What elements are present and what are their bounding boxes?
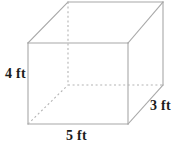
edge-top-right-diagonal — [128, 2, 163, 43]
edge-top-left-diagonal — [28, 2, 68, 43]
hidden-edges-group — [28, 2, 163, 124]
height-dimension-label: 4 ft — [5, 67, 26, 81]
prism-figure: 4 ft 5 ft 3 ft — [0, 0, 175, 152]
visible-edges-group — [28, 2, 163, 124]
width-dimension-label: 5 ft — [66, 129, 87, 143]
depth-dimension-label: 3 ft — [150, 99, 171, 113]
hidden-edge-bottom-left-diagonal — [28, 85, 68, 124]
prism-drawing — [0, 0, 175, 152]
